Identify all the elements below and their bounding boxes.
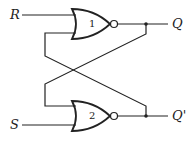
q-output-label: Q (172, 17, 183, 30)
gate-1-number: 1 (89, 19, 95, 29)
feedback-wire-to-gate2 (45, 24, 146, 106)
circuit-drawing (0, 0, 195, 144)
s-input-label: S (10, 118, 19, 131)
feedback-wire-to-gate1 (45, 33, 146, 116)
gate-2-number: 2 (89, 111, 95, 121)
sr-latch-diagram: R S Q Q' 1 2 (0, 0, 195, 144)
junction-dot-q (144, 22, 148, 26)
junction-dot-q-prime (144, 114, 148, 118)
q-prime-output-label: Q' (172, 109, 186, 122)
inverter-bubble-2 (111, 113, 118, 120)
inverter-bubble-1 (111, 21, 118, 28)
r-input-label: R (10, 8, 20, 21)
